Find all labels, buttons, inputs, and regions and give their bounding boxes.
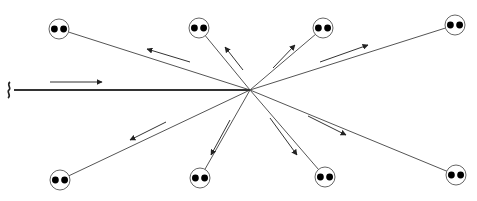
node-top-middle <box>189 18 209 38</box>
node-bottom-left <box>50 170 70 190</box>
ray-top-left <box>62 30 250 90</box>
scattered-rays <box>62 26 453 179</box>
right-dot-icon <box>456 22 463 29</box>
arrow-icon-bottom-left <box>130 122 166 140</box>
right-dot-icon <box>326 174 333 181</box>
scattering-diagram <box>0 0 477 201</box>
arrow-icon-top-left <box>147 49 190 62</box>
left-dot-icon <box>447 22 454 29</box>
ray-top-middle <box>201 30 250 90</box>
arrow-icon-bottom-right <box>270 118 297 155</box>
arrow-icon-top-middle <box>225 47 243 70</box>
node-top-left <box>49 19 69 39</box>
right-dot-icon <box>61 177 68 184</box>
squiggle-break-icon <box>8 82 10 98</box>
right-dot-icon <box>324 25 331 32</box>
node-top-right <box>313 18 333 38</box>
arrow-icon-top-right <box>273 45 295 68</box>
right-dot-icon <box>457 172 464 179</box>
node-far-right-top <box>445 15 465 35</box>
left-dot-icon <box>52 177 59 184</box>
right-dot-icon <box>201 175 208 182</box>
arrow-icon-bottom-middle <box>211 120 230 155</box>
left-dot-icon <box>191 25 198 32</box>
arrow-icon-far-right-bottom <box>308 116 346 135</box>
right-dot-icon <box>200 25 207 32</box>
left-dot-icon <box>448 172 455 179</box>
left-dot-icon <box>317 174 324 181</box>
node-bottom-right <box>315 167 335 187</box>
ray-top-right <box>250 30 321 90</box>
ray-bottom-right <box>250 90 323 175</box>
left-dot-icon <box>315 25 322 32</box>
left-dot-icon <box>192 175 199 182</box>
incoming-beam <box>8 82 250 98</box>
ray-far-right-top <box>250 26 452 90</box>
arrow-icon-far-right-top <box>320 45 368 62</box>
node-far-right-bottom <box>446 165 466 185</box>
flow-arrows <box>50 45 368 155</box>
left-dot-icon <box>51 26 58 33</box>
right-dot-icon <box>60 26 67 33</box>
ray-bottom-middle <box>201 90 250 175</box>
node-bottom-middle <box>190 168 210 188</box>
